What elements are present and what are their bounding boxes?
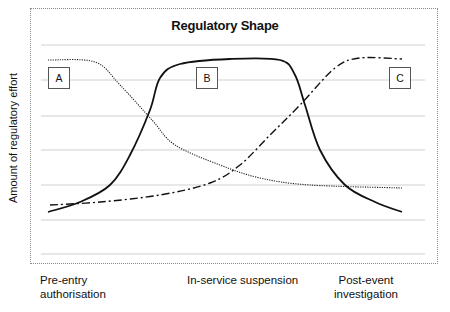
x-label-in-service: In-service suspension: [187, 273, 298, 287]
curve-b-solid: [48, 58, 402, 212]
x-label-pre-entry-line2: authorisation: [40, 287, 106, 301]
label-box-b: B: [196, 67, 218, 89]
curve-a-dotted: [48, 60, 402, 188]
label-box-a: A: [48, 67, 70, 89]
x-label-post-event: Post-event investigation: [334, 273, 398, 301]
x-label-post-event-line1: Post-event: [334, 273, 398, 287]
label-box-c: C: [389, 67, 411, 89]
gridlines: [41, 45, 425, 254]
x-label-post-event-line2: investigation: [334, 287, 398, 301]
x-label-pre-entry: Pre-entry authorisation: [40, 273, 106, 301]
plot-area: [0, 0, 450, 312]
x-label-pre-entry-line1: Pre-entry: [40, 273, 106, 287]
